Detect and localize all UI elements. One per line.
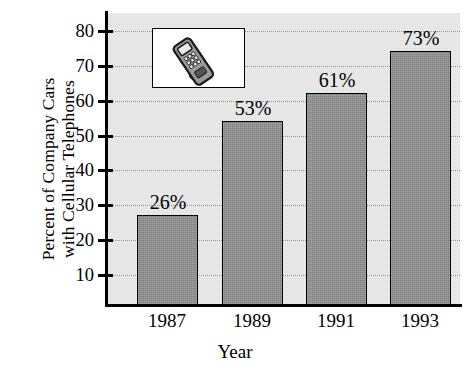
y-tick-label-30: 30 bbox=[50, 196, 94, 214]
y-tick-mark-70 bbox=[98, 65, 113, 68]
y-tick-mark-80 bbox=[98, 30, 113, 33]
y-tick-mark-50 bbox=[98, 135, 113, 138]
cellular-telephone-icon bbox=[153, 29, 243, 86]
bar-value-1989: 53% bbox=[217, 98, 289, 118]
x-tick-label-1987: 1987 bbox=[132, 310, 202, 332]
bar-1991 bbox=[306, 93, 367, 305]
y-tick-mark-30 bbox=[98, 204, 113, 207]
y-tick-mark-10 bbox=[98, 274, 113, 277]
y-tick-label-80: 80 bbox=[50, 22, 94, 40]
y-tick-label-50: 50 bbox=[50, 127, 94, 145]
y-tick-label-70: 70 bbox=[50, 57, 94, 75]
bar-1993 bbox=[390, 51, 451, 305]
bar-value-1987: 26% bbox=[132, 192, 204, 212]
y-tick-mark-60 bbox=[98, 100, 113, 103]
y-tick-mark-40 bbox=[98, 169, 113, 172]
x-tick-label-1993: 1993 bbox=[385, 310, 455, 332]
bar-1989 bbox=[222, 121, 283, 305]
y-tick-mark-20 bbox=[98, 239, 113, 242]
x-tick-label-1989: 1989 bbox=[217, 310, 287, 332]
cellular-telephone-inset bbox=[152, 28, 245, 88]
y-axis-line bbox=[105, 11, 108, 307]
y-tick-label-20: 20 bbox=[50, 231, 94, 249]
bar-1987 bbox=[137, 215, 198, 305]
y-tick-label-60: 60 bbox=[50, 92, 94, 110]
bar-value-1991: 61% bbox=[301, 70, 373, 90]
y-tick-label-40: 40 bbox=[50, 161, 94, 179]
bar-chart-figure: Percent of Company Cars with Cellular Te… bbox=[0, 0, 470, 372]
x-tick-label-1991: 1991 bbox=[301, 310, 371, 332]
bar-value-1993: 73% bbox=[385, 28, 457, 48]
y-tick-label-10: 10 bbox=[50, 266, 94, 284]
x-axis-title: Year bbox=[0, 341, 470, 363]
